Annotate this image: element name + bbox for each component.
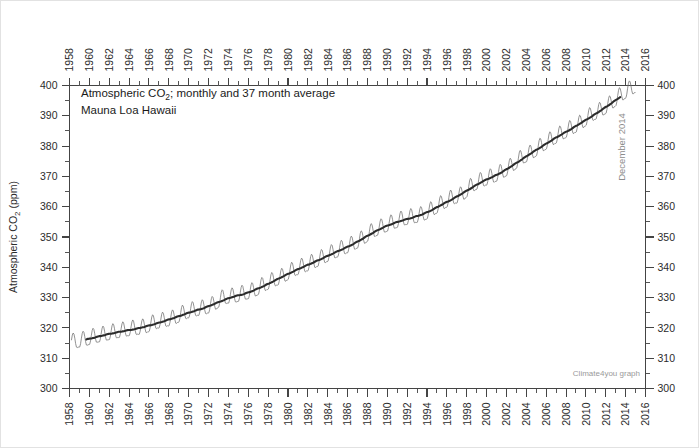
x-tick-label-top: 1980	[282, 48, 294, 72]
plot-frame	[70, 86, 646, 389]
y-axis-title-after: (ppm)	[7, 181, 19, 211]
y-tick-label-right: 400	[658, 79, 676, 91]
x-tick-label-top: 1968	[163, 48, 175, 72]
y-tick-label-right: 300	[658, 382, 676, 394]
y-axis-title-before: Atmospheric CO	[7, 216, 19, 293]
annotation-title-rest: ; monthly and 37 month average	[170, 87, 335, 99]
x-tick-label-bottom: 1984	[322, 402, 334, 426]
x-tick-label-top: 2012	[600, 48, 612, 72]
annotation-subtitle: Mauna Loa Hawaii	[81, 104, 176, 116]
y-tick-label-right: 310	[658, 352, 676, 364]
x-tick-label-top: 1974	[222, 48, 234, 72]
x-axis-top-ticks	[70, 78, 646, 86]
x-tick-label-top: 2016	[639, 48, 651, 72]
y-tick-label-right: 350	[658, 231, 676, 243]
x-tick-label-top: 1988	[361, 48, 373, 72]
x-tick-label-top: 1984	[322, 48, 334, 72]
y-tick-label-left: 320	[40, 322, 58, 334]
x-tick-label-top: 1990	[381, 48, 393, 72]
x-tick-label-top: 1966	[143, 48, 155, 72]
y-tick-label-left: 300	[40, 382, 58, 394]
x-tick-label-bottom: 2010	[580, 402, 592, 426]
y-tick-label-left: 370	[40, 170, 58, 182]
x-tick-label-top: 1970	[182, 48, 194, 72]
x-tick-label-bottom: 2012	[600, 402, 612, 426]
y-tick-label-left: 340	[40, 261, 58, 273]
x-axis-bottom-labels: 1958196019621964196619681970197219741976…	[63, 402, 651, 426]
x-tick-label-top: 2004	[520, 48, 532, 72]
plot-area-border	[70, 86, 646, 389]
y-tick-label-left: 380	[40, 140, 58, 152]
x-tick-label-bottom: 1966	[143, 402, 155, 426]
y-tick-label-right: 380	[658, 140, 676, 152]
chart-figure: 300310320330340350360370380390400 300310…	[0, 0, 699, 448]
x-tick-label-bottom: 1990	[381, 402, 393, 426]
x-tick-label-top: 1978	[262, 48, 274, 72]
annotation-title-main: Atmospheric CO	[81, 87, 165, 99]
watermark-label: Climate4you graph	[573, 369, 640, 378]
x-tick-label-bottom: 1998	[461, 402, 473, 426]
y-tick-label-left: 310	[40, 352, 58, 364]
x-tick-label-bottom: 2016	[639, 402, 651, 426]
x-tick-label-bottom: 1962	[103, 402, 115, 426]
y-tick-label-left: 330	[40, 291, 58, 303]
x-tick-label-bottom: 1972	[202, 402, 214, 426]
y-tick-label-left: 350	[40, 231, 58, 243]
x-tick-label-top: 1998	[461, 48, 473, 72]
y-tick-label-right: 340	[658, 261, 676, 273]
y-axis-left-labels: 300310320330340350360370380390400	[40, 79, 58, 394]
y-axis-left-ticks	[62, 86, 70, 389]
x-tick-label-top: 1982	[302, 48, 314, 72]
x-axis-top-labels: 1958196019621964196619681970197219741976…	[63, 48, 651, 72]
x-tick-label-top: 2000	[480, 48, 492, 72]
svg-text:Atmospheric CO2 (ppm): Atmospheric CO2 (ppm)	[7, 181, 22, 293]
y-tick-label-right: 330	[658, 291, 676, 303]
x-tick-label-bottom: 1980	[282, 402, 294, 426]
y-tick-label-right: 320	[658, 322, 676, 334]
x-tick-label-top: 1994	[421, 48, 433, 72]
x-tick-label-bottom: 1994	[421, 402, 433, 426]
smoothed-37month-average-series	[86, 97, 620, 339]
x-tick-label-bottom: 1974	[222, 402, 234, 426]
x-tick-label-bottom: 2004	[520, 402, 532, 426]
x-tick-label-top: 1960	[83, 48, 95, 72]
x-tick-label-top: 2014	[619, 48, 631, 72]
monthly-co2-series	[71, 81, 635, 348]
x-tick-label-top: 1958	[63, 48, 75, 72]
annotation-title-line: Atmospheric CO2; monthly and 37 month av…	[81, 87, 335, 102]
y-tick-label-right: 390	[658, 109, 676, 121]
y-tick-label-left: 360	[40, 200, 58, 212]
co2-line-chart: 300310320330340350360370380390400 300310…	[1, 1, 699, 448]
x-tick-label-top: 1992	[401, 48, 413, 72]
x-tick-label-bottom: 1960	[83, 402, 95, 426]
y-tick-label-left: 400	[40, 79, 58, 91]
y-axis-right-labels: 300310320330340350360370380390400	[658, 79, 676, 394]
x-tick-label-top: 2002	[500, 48, 512, 72]
x-tick-label-bottom: 2000	[480, 402, 492, 426]
x-tick-label-bottom: 1964	[123, 402, 135, 426]
x-tick-label-bottom: 1968	[163, 402, 175, 426]
x-tick-label-top: 1976	[242, 48, 254, 72]
x-tick-label-top: 2008	[560, 48, 572, 72]
x-tick-label-top: 1962	[103, 48, 115, 72]
x-tick-label-bottom: 1986	[341, 402, 353, 426]
x-tick-label-bottom: 2002	[500, 402, 512, 426]
x-tick-label-top: 2006	[540, 48, 552, 72]
x-tick-label-top: 1972	[202, 48, 214, 72]
end-date-annotation: December 2014	[616, 113, 627, 181]
x-tick-label-top: 1964	[123, 48, 135, 72]
y-axis-right-ticks	[646, 86, 654, 389]
y-tick-label-right: 360	[658, 200, 676, 212]
y-tick-label-right: 370	[658, 170, 676, 182]
x-tick-label-bottom: 1978	[262, 402, 274, 426]
x-tick-label-bottom: 2006	[540, 402, 552, 426]
x-tick-label-bottom: 1982	[302, 402, 314, 426]
x-tick-label-bottom: 1970	[182, 402, 194, 426]
x-tick-label-bottom: 2014	[619, 402, 631, 426]
x-tick-label-bottom: 1988	[361, 402, 373, 426]
x-tick-label-bottom: 1996	[441, 402, 453, 426]
x-tick-label-bottom: 1976	[242, 402, 254, 426]
y-axis-title: Atmospheric CO2 (ppm)	[7, 181, 22, 293]
x-tick-label-top: 1996	[441, 48, 453, 72]
x-axis-bottom-ticks	[70, 389, 646, 397]
